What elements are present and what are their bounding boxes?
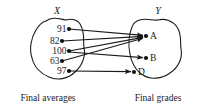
label-91: 91 [57, 24, 67, 34]
label-63: 63 [50, 56, 60, 66]
arrow-91-to-A [69, 29, 143, 35]
mapping-diagram-figure: X Y 91 82 100 63 97 A B D Final averages… [0, 0, 202, 107]
label-82: 82 [50, 36, 60, 46]
node-D [132, 70, 136, 74]
arrow-100-to-B [69, 52, 143, 58]
arrow-97-to-D [69, 71, 131, 72]
domain-caption: Final averages [20, 93, 75, 103]
mapping-arrows [62, 29, 143, 72]
node-A [144, 34, 148, 38]
set-y-label: Y [155, 5, 162, 16]
arrow-82-to-A [62, 36, 143, 41]
label-D: D [138, 67, 145, 77]
node-63 [60, 59, 64, 63]
label-A: A [150, 31, 157, 41]
node-B [144, 56, 148, 60]
label-B: B [150, 53, 156, 63]
node-82 [60, 39, 64, 43]
label-97: 97 [57, 66, 67, 76]
diagram-canvas: X Y 91 82 100 63 97 A B D Final averages… [0, 0, 202, 107]
set-y-blob [129, 19, 181, 78]
node-91 [67, 27, 71, 31]
set-x-label: X [53, 5, 61, 16]
node-100 [67, 49, 71, 53]
node-97 [67, 69, 71, 73]
codomain-caption: Final grades [135, 93, 182, 103]
label-100: 100 [52, 46, 67, 56]
